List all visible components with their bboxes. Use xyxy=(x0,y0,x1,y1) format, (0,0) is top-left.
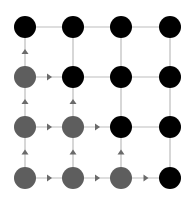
node-visited xyxy=(62,167,84,189)
node-unvisited xyxy=(110,66,132,88)
node-visited xyxy=(14,116,36,138)
node-unvisited xyxy=(159,16,181,38)
node-unvisited xyxy=(14,16,36,38)
grid-diagram xyxy=(0,0,188,203)
arrow-up-icon xyxy=(70,99,77,104)
node-unvisited xyxy=(159,167,181,189)
node-unvisited xyxy=(159,66,181,88)
node-visited xyxy=(110,167,132,189)
arrows-layer xyxy=(22,49,149,182)
arrow-up-icon xyxy=(22,99,29,104)
arrow-right-icon xyxy=(95,175,100,182)
arrow-right-icon xyxy=(144,175,149,182)
node-visited xyxy=(14,167,36,189)
node-unvisited xyxy=(62,66,84,88)
nodes-layer xyxy=(14,16,181,189)
node-visited xyxy=(62,116,84,138)
arrow-up-icon xyxy=(70,150,77,155)
arrow-right-icon xyxy=(47,175,52,182)
node-unvisited xyxy=(110,16,132,38)
arrow-right-icon xyxy=(47,124,52,131)
arrow-up-icon xyxy=(118,150,125,155)
node-unvisited xyxy=(159,116,181,138)
arrow-right-icon xyxy=(47,74,52,81)
node-unvisited xyxy=(110,116,132,138)
arrow-up-icon xyxy=(22,150,29,155)
node-unvisited xyxy=(62,16,84,38)
arrow-right-icon xyxy=(95,124,100,131)
arrow-up-icon xyxy=(22,49,29,54)
node-visited xyxy=(14,66,36,88)
edges-layer xyxy=(25,27,170,178)
